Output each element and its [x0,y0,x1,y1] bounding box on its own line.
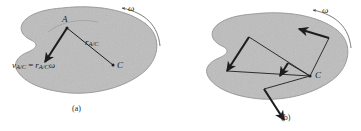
vac-subscript: A/C [16,63,26,70]
angular-velocity-label-b: ω [322,5,328,15]
velocity-equation-label: vA/C=rA/Cω [12,60,55,70]
panel-a [16,7,160,93]
position-vector-label: rA/C [85,37,99,47]
point-C-marker-a [112,64,115,67]
panel-caption-a: (a) [72,104,81,113]
vac-rhs-subscript: A/C [39,63,49,70]
rigid-body-shape-b [207,13,348,99]
point-C-marker-b [308,74,311,77]
omega-symbol-inline: ω [49,60,55,70]
panel-caption-b: (b) [281,113,290,122]
rigid-body-shape-a [16,7,157,93]
point-label-A: A [62,14,68,24]
point-label-C-panel-a: C [117,60,123,70]
angular-velocity-label-a: ω [128,3,134,13]
rac-subscript: A/C [89,40,99,47]
equals-sign: = [26,60,35,70]
point-label-C-panel-b: C [315,70,321,80]
panel-b [207,10,351,120]
point-A-marker [66,27,69,30]
